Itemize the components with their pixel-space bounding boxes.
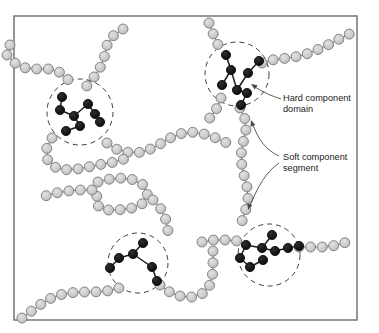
soft-component-bead (82, 81, 92, 91)
hard-component-bead (294, 241, 303, 250)
hard-component-bead (254, 56, 263, 65)
soft-component-bead (112, 144, 122, 154)
soft-component-bead (99, 51, 109, 61)
hard-component-bead (83, 99, 92, 108)
soft-component-bead (237, 216, 247, 226)
hard-component-bead (128, 249, 137, 258)
soft-component-bead (239, 171, 249, 181)
soft-component-bead (148, 195, 158, 205)
soft-component-bead (26, 306, 36, 316)
hard-component-bead (221, 50, 230, 59)
soft-component-bead (102, 40, 112, 50)
soft-component-bead (207, 269, 217, 279)
hard-component-bead (90, 109, 99, 118)
soft-component-bead (63, 75, 73, 85)
soft-component-bead (161, 214, 171, 224)
hard-component-bead (258, 255, 267, 264)
soft-component-bead (107, 157, 117, 167)
hard-component-bead (57, 92, 66, 101)
soft-component-bead (75, 185, 85, 195)
soft-component-bead (103, 286, 113, 296)
soft-component-bead (241, 125, 251, 135)
soft-component-bead (280, 53, 290, 63)
soft-component-bead (344, 29, 354, 39)
soft-component-bead (324, 40, 334, 50)
soft-component-bead (306, 242, 316, 252)
hard-component-bead (69, 111, 78, 120)
soft-component-bead (84, 162, 94, 172)
hard-component-bead (61, 126, 70, 135)
hard-component-bead (75, 121, 84, 130)
soft-component-label-line2: segment (283, 163, 319, 173)
soft-component-bead (5, 40, 15, 50)
soft-component-bead (212, 104, 222, 114)
hard-component-bead (114, 253, 123, 262)
soft-component-bead (127, 203, 137, 213)
morphology-diagram: Hard component domain Soft component seg… (0, 0, 379, 333)
soft-component-bead (134, 147, 144, 157)
soft-component-bead (41, 191, 51, 201)
hard-component-bead (267, 230, 276, 239)
soft-component-bead (114, 283, 124, 293)
soft-component-bead (156, 204, 166, 214)
soft-component-bead (199, 129, 209, 139)
soft-component-bead (64, 186, 74, 196)
soft-component-bead (238, 136, 248, 146)
soft-component-bead (340, 238, 350, 248)
soft-component-bead (176, 129, 186, 139)
hard-component-bead (105, 263, 114, 272)
hard-component-bead (283, 243, 292, 252)
soft-component-bead (52, 188, 62, 198)
soft-component-bead (216, 93, 226, 103)
soft-component-bead (118, 154, 128, 164)
soft-component-bead (73, 164, 83, 174)
soft-component-bead (20, 63, 30, 73)
soft-component-bead (89, 72, 99, 82)
hard-component-bead (242, 88, 251, 97)
soft-component-bead (166, 133, 176, 143)
soft-component-bead (208, 235, 218, 245)
soft-component-bead (210, 133, 220, 143)
soft-component-bead (156, 139, 166, 149)
soft-component-bead (47, 133, 57, 143)
hard-component-bead (245, 262, 254, 271)
soft-component-bead (42, 143, 52, 153)
soft-component-bead (213, 39, 223, 49)
soft-component-bead (145, 144, 155, 154)
soft-component-bead (268, 55, 278, 65)
hard-component-bead (95, 117, 104, 126)
soft-component-bead (175, 291, 185, 301)
hard-component-bead (257, 243, 266, 252)
soft-component-bead (118, 24, 128, 34)
soft-component-bead (54, 67, 64, 77)
hard-component-bead (226, 65, 235, 74)
soft-component-bead (96, 159, 106, 169)
soft-component-bead (43, 155, 53, 165)
hard-component-bead (235, 253, 244, 262)
soft-component-bead (91, 287, 101, 297)
soft-component-bead (291, 52, 301, 62)
soft-component-bead (240, 114, 250, 124)
hard-component-bead (138, 238, 147, 247)
soft-component-bead (232, 236, 242, 246)
soft-component-bead (163, 226, 173, 236)
soft-component-bead (208, 258, 218, 268)
soft-component-bead (334, 34, 344, 44)
soft-component-bead (108, 31, 118, 41)
soft-component-bead (93, 201, 103, 211)
soft-component-bead (36, 299, 46, 309)
soft-component-bead (329, 241, 339, 251)
soft-component-bead (208, 246, 218, 256)
soft-component-bead (204, 18, 214, 28)
thermoplastic-elastomer-figure: Hard component domain Soft component seg… (0, 0, 379, 333)
soft-component-bead (317, 242, 327, 252)
soft-component-bead (95, 62, 105, 72)
soft-component-bead (10, 58, 20, 68)
soft-component-bead (164, 287, 174, 297)
soft-component-bead (79, 287, 89, 297)
soft-component-bead (115, 205, 125, 215)
hard-component-bead (236, 100, 245, 109)
soft-component-bead (188, 127, 198, 137)
hard-component-bead (152, 276, 161, 285)
soft-component-bead (32, 64, 42, 74)
